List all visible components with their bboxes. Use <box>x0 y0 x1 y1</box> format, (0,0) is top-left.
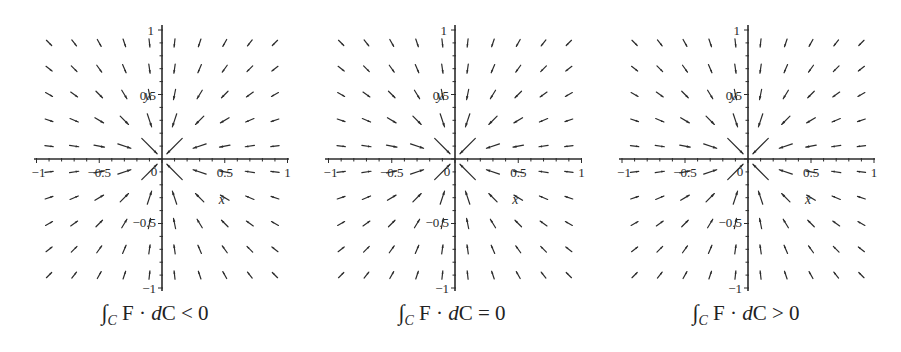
field-arrow <box>832 119 840 123</box>
field-arrow <box>784 245 788 253</box>
field-arrow <box>681 195 690 200</box>
field-arrow <box>632 272 637 277</box>
vector-field-panel-positive: −1−0.500.5110.5−0.5−1xy ∫C F · dC > 0 <box>0 0 300 352</box>
y-tick-label: −1 <box>728 281 742 296</box>
field-arrow <box>656 196 664 200</box>
field-arrow <box>706 116 714 124</box>
field-arrow <box>759 271 761 279</box>
field-arrow <box>832 171 841 173</box>
field-arrow <box>655 145 664 147</box>
field-arrow <box>759 64 761 73</box>
field-arrow <box>657 66 663 72</box>
field-arrow <box>834 40 839 46</box>
field-arrow <box>735 245 737 254</box>
field-arrow <box>683 65 688 72</box>
field-arrow <box>809 39 813 46</box>
relation-value: 0 <box>495 301 506 325</box>
field-arrow <box>759 89 762 100</box>
field-arrow <box>683 246 688 253</box>
field-arrow <box>682 220 689 227</box>
field-arrow <box>833 92 840 97</box>
line-integral-caption: ∫C F · dC = 0 <box>302 300 602 326</box>
field-arrow <box>833 246 839 252</box>
field-arrow <box>753 138 768 153</box>
field-arrow <box>657 272 662 278</box>
x-tick-label: −1 <box>617 165 631 180</box>
field-arrow <box>709 39 712 47</box>
field-arrow <box>858 119 866 122</box>
x-axis-label: x <box>804 192 812 207</box>
field-arrow <box>784 271 787 279</box>
differential-d: d <box>742 301 753 325</box>
field-arrow <box>706 194 714 202</box>
curve-symbol: C <box>753 301 767 325</box>
field-arrow <box>857 145 865 147</box>
differential-d: d <box>448 301 459 325</box>
integrand: F · <box>419 301 448 325</box>
field-arrow <box>632 247 638 252</box>
field-arrow <box>733 191 737 204</box>
integral-subscript: C <box>404 313 413 328</box>
field-arrow <box>656 92 663 97</box>
field-arrow <box>630 145 638 147</box>
field-arrow <box>809 246 814 253</box>
field-arrow <box>833 66 839 72</box>
field-arrow <box>728 138 743 153</box>
relation-value: 0 <box>789 301 800 325</box>
field-arrow <box>783 219 788 228</box>
field-arrow <box>832 196 840 200</box>
field-arrow <box>708 219 713 228</box>
field-arrow <box>858 247 864 252</box>
field-arrow <box>782 194 790 202</box>
quiver-plot: −1−0.500.5110.5−0.5−1xy <box>0 0 901 300</box>
field-arrow <box>858 222 865 226</box>
field-arrow <box>834 272 839 278</box>
field-arrow <box>758 114 762 127</box>
field-arrow <box>682 91 689 98</box>
field-arrow <box>733 114 737 127</box>
field-arrow <box>753 164 768 179</box>
field-arrow <box>779 170 792 174</box>
field-arrow <box>809 65 814 72</box>
field-arrow <box>759 218 762 229</box>
field-arrow <box>631 196 639 199</box>
field-arrow <box>708 90 713 99</box>
field-arrow <box>704 170 717 174</box>
field-arrow <box>808 220 815 227</box>
field-arrow <box>680 145 691 148</box>
field-arrow <box>656 221 663 226</box>
field-arrow <box>759 39 761 47</box>
field-arrow <box>657 246 663 252</box>
field-arrow <box>683 272 687 279</box>
integral-subscript: C <box>698 313 707 328</box>
field-arrow <box>784 65 788 73</box>
field-arrow <box>857 171 865 173</box>
relation-symbol: > <box>772 301 784 325</box>
field-arrow <box>784 39 787 47</box>
field-arrow <box>657 40 662 46</box>
field-arrow <box>759 245 761 254</box>
field-arrow <box>859 272 864 277</box>
curve-symbol: C <box>459 301 473 325</box>
field-arrow <box>655 171 664 173</box>
field-arrow <box>806 145 817 148</box>
field-arrow <box>735 271 737 279</box>
field-arrow <box>809 272 813 279</box>
field-arrow <box>708 245 712 253</box>
field-arrow <box>858 93 865 97</box>
field-arrow <box>782 116 790 124</box>
field-arrow <box>656 119 664 123</box>
field-arrow <box>681 118 690 123</box>
field-arrow <box>735 39 737 47</box>
field-arrow <box>683 39 687 46</box>
integrand: F · <box>713 301 742 325</box>
field-arrow <box>631 119 639 122</box>
field-arrow <box>632 40 637 45</box>
field-arrow <box>758 191 762 204</box>
field-arrow <box>735 64 737 73</box>
field-arrow <box>807 118 816 123</box>
field-arrow <box>859 40 864 45</box>
field-arrow <box>808 91 815 98</box>
field-arrow <box>630 171 638 173</box>
relation-symbol: = <box>478 301 490 325</box>
